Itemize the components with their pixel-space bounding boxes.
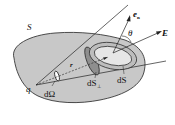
solid-angle-label: dΩ [44,89,56,99]
gauss-diagram: S q dΩ r en θ E dS⊥ dS [0,0,175,125]
normal-label: en [133,9,140,20]
theta-label: θ [128,28,133,38]
normal-arrowhead [127,15,131,22]
field-label: E [161,28,168,38]
dS-label: dS [117,75,127,85]
radius-label: r [70,61,73,69]
surface-label: S [27,22,32,32]
charge-label: q [26,84,31,94]
